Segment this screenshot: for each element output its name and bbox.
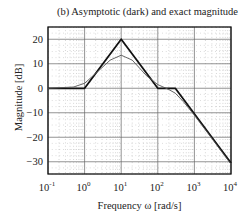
y-tick-label: 0 — [38, 83, 43, 94]
y-tick-label: −30 — [27, 156, 43, 167]
x-tick-label: 103 — [186, 180, 201, 193]
grid — [48, 27, 231, 174]
y-tick-label: −20 — [27, 132, 43, 143]
x-tick-label: 102 — [150, 180, 165, 193]
y-tick-label: 10 — [33, 58, 44, 69]
y-tick-label: −10 — [27, 107, 43, 118]
x-tick-label: 101 — [113, 180, 128, 193]
x-tick-label: 104 — [223, 180, 238, 193]
exact-curve — [48, 55, 231, 164]
magnitude-plot: 20100−10−20−3010-1100101102103104 — [0, 0, 247, 218]
x-tick-label: 10-1 — [39, 180, 56, 193]
x-tick-label: 100 — [77, 180, 92, 193]
y-tick-label: 20 — [33, 34, 44, 45]
